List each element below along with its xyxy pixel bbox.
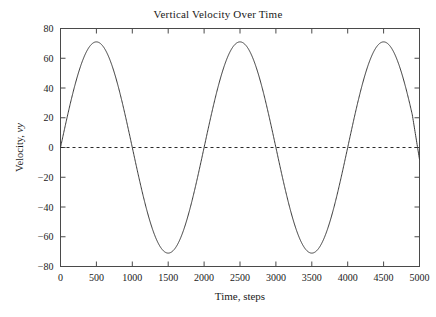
y-tick-label: −20	[38, 172, 54, 183]
y-tick-label: −40	[38, 202, 54, 213]
x-tick-label: 1500	[158, 272, 178, 283]
axes-frame	[61, 29, 420, 267]
x-tick-label: 4000	[338, 272, 358, 283]
x-tick-label: 4500	[374, 272, 394, 283]
y-tick-label: 40	[44, 83, 54, 94]
y-tick-label: 60	[44, 53, 54, 64]
y-tick-label: 0	[49, 142, 54, 153]
y-tick-label: 80	[44, 23, 54, 34]
velocity-series-line	[61, 42, 420, 253]
chart-figure: Vertical Velocity Over Time Velocity, vy…	[0, 0, 436, 317]
y-axis-tick-labels: 806040200−20−40−60−80	[38, 23, 54, 272]
x-tick-label: 2000	[194, 272, 214, 283]
x-tick-label: 5000	[410, 272, 430, 283]
x-tick-label: 3500	[302, 272, 322, 283]
plot-canvas: 0500100015002000250030003500400045005000…	[0, 0, 436, 317]
x-tick-label: 3000	[266, 272, 286, 283]
x-tick-label: 1000	[122, 272, 142, 283]
y-tick-label: −60	[38, 231, 54, 242]
x-tick-label: 2500	[230, 272, 250, 283]
x-tick-label: 500	[89, 272, 104, 283]
x-axis-tick-labels: 0500100015002000250030003500400045005000	[58, 272, 430, 283]
x-axis-ticks	[61, 29, 420, 267]
y-axis-ticks	[61, 29, 420, 267]
y-tick-label: −80	[38, 261, 54, 272]
x-tick-label: 0	[58, 272, 63, 283]
y-tick-label: 20	[44, 112, 54, 123]
